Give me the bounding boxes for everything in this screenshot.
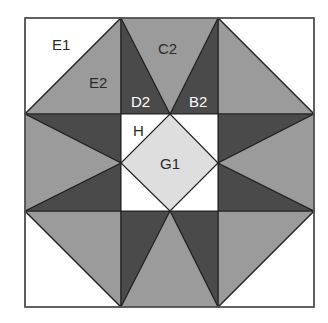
label-h: H [133,122,144,139]
label-e1: E1 [52,36,70,53]
label-c2: C2 [158,40,177,57]
label-g1: G1 [160,155,180,172]
label-e2: E2 [89,74,107,91]
label-d2: D2 [131,93,150,110]
corner-bottom-left [25,211,121,307]
quilt-block-diagram: E1 E2 C2 D2 B2 H G1 [0,0,328,323]
edge-left [25,114,121,211]
label-b2: B2 [189,93,207,110]
corner-top-left [25,18,121,114]
edge-bottom [121,211,218,307]
edge-right [218,114,314,211]
corner-bottom-right [218,211,314,307]
corner-top-right [218,18,314,114]
